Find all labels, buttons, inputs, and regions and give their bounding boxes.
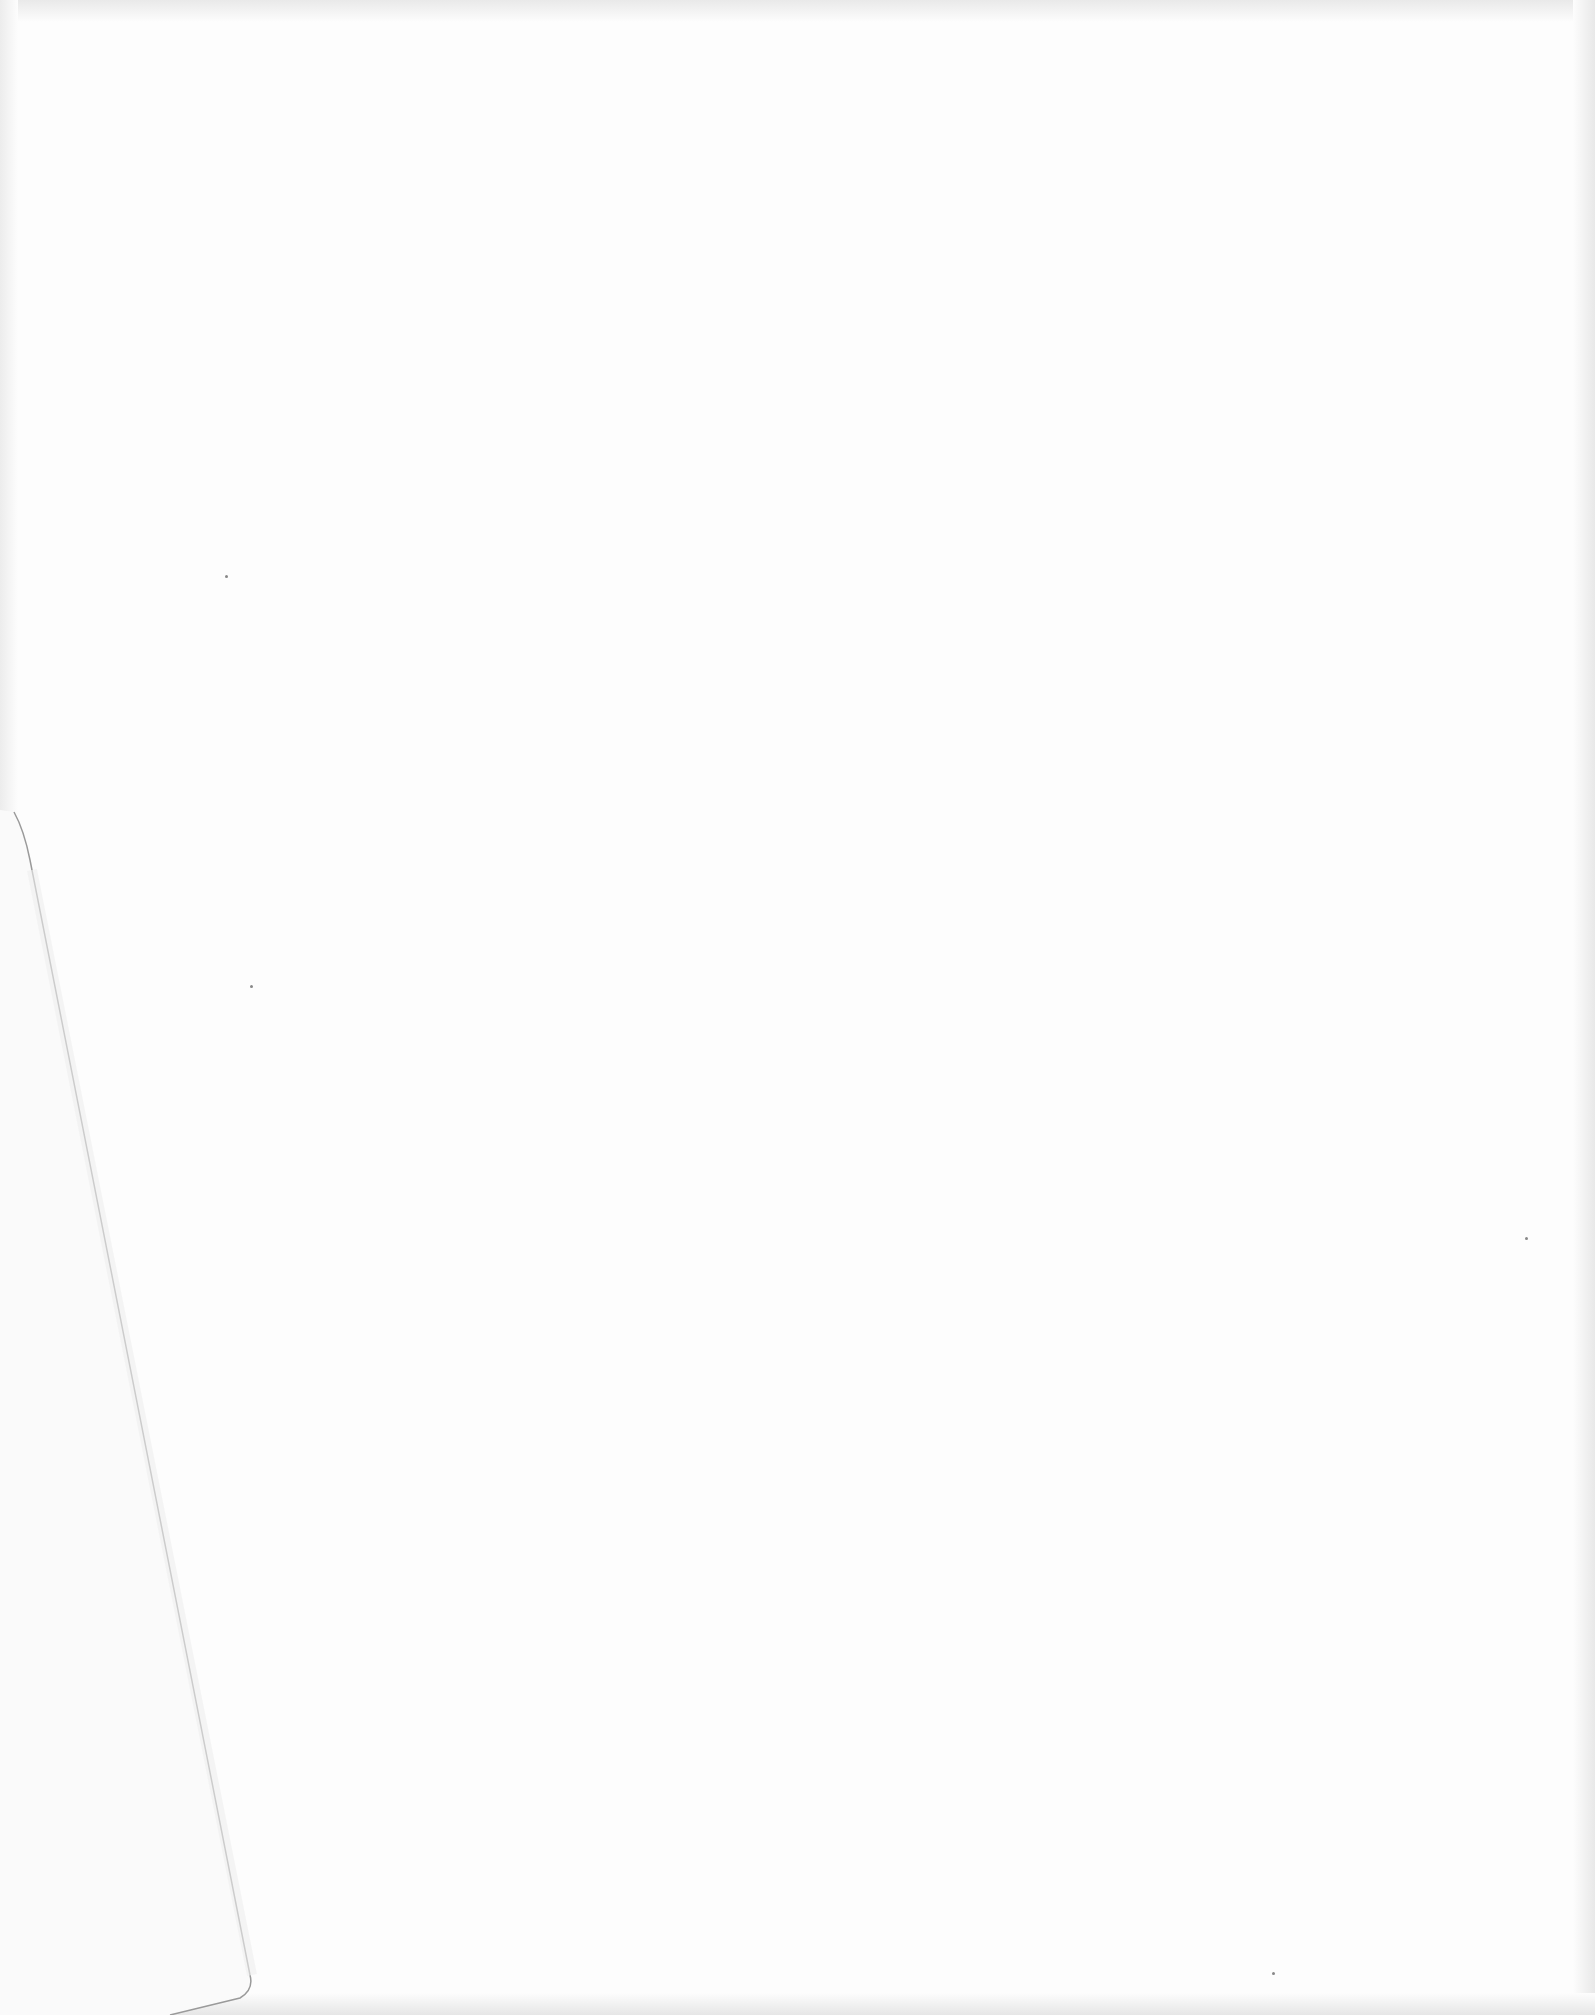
dust-speck (250, 985, 253, 988)
dust-speck (225, 575, 228, 578)
page-fold-edge (0, 0, 1595, 2015)
dust-speck (1525, 1237, 1528, 1240)
dust-speck (1272, 1972, 1275, 1975)
